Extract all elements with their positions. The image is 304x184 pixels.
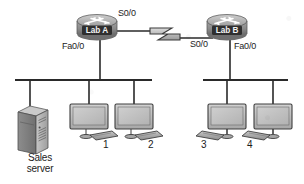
label-sales-server-line2: server: [18, 163, 62, 174]
router-lab-b-name: Lab B: [216, 26, 239, 35]
label-pc-2: 2: [148, 140, 153, 150]
pc-4-icon[interactable]: [242, 104, 292, 140]
pc-1-icon[interactable]: [70, 104, 118, 140]
label-lab-b-serial-interface: S0/0: [190, 39, 208, 49]
router-lab-b-icon[interactable]: Lab B: [207, 15, 247, 41]
wan-serial-lightning-bolt-icon: [150, 28, 180, 40]
label-pc-4: 4: [247, 140, 252, 150]
pc-3-icon[interactable]: [196, 104, 246, 140]
router-lab-a-icon[interactable]: Lab A: [77, 15, 117, 41]
label-lab-a-serial-interface: S0/0: [118, 8, 136, 18]
label-pc-1: 1: [103, 140, 108, 150]
sales-server-icon[interactable]: [18, 106, 48, 154]
pc-2-icon[interactable]: [115, 104, 163, 140]
label-lab-a-fastethernet-interface: Fa0/0: [62, 41, 84, 51]
label-lab-b-fastethernet-interface: Fa0/0: [234, 41, 256, 51]
router-lab-a-name: Lab A: [86, 26, 109, 35]
label-sales-server-line1: Sales: [18, 152, 62, 163]
network-diagram: Lab A Lab B: [0, 0, 304, 184]
label-pc-3: 3: [201, 140, 206, 150]
